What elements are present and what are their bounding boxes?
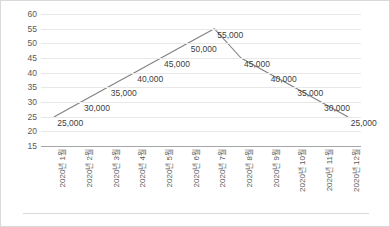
x-axis-category-label: 2020년 9월 xyxy=(272,149,281,211)
data-label: 25,000 xyxy=(57,119,83,128)
y-axis-tick-label: 45 xyxy=(3,54,37,63)
gridline xyxy=(41,73,361,74)
data-label: 30,000 xyxy=(84,104,110,113)
gridline xyxy=(41,29,361,30)
x-axis-category-label: 2020년 10월 xyxy=(298,149,307,211)
y-axis: 60555045403530252015 xyxy=(1,14,37,146)
x-axis-category-label: 2020년 2월 xyxy=(85,149,94,211)
x-axis-category-label: 2020년 12월 xyxy=(352,149,361,211)
y-axis-tick-label: 20 xyxy=(3,127,37,136)
x-axis-line xyxy=(41,146,361,147)
series-line xyxy=(41,14,361,146)
x-axis-category-label: 2020년 1월 xyxy=(58,149,67,211)
data-label: 50,000 xyxy=(191,45,217,54)
data-label: 30,000 xyxy=(324,104,350,113)
gridline xyxy=(41,14,361,15)
data-label: 40,000 xyxy=(271,75,297,84)
gridline xyxy=(41,117,361,118)
y-axis-tick-label: 25 xyxy=(3,113,37,122)
data-label: 45,000 xyxy=(244,60,270,69)
y-axis-tick-label: 50 xyxy=(3,39,37,48)
x-axis-category-label: 2020년 3월 xyxy=(112,149,121,211)
y-axis-tick-label: 55 xyxy=(3,25,37,34)
gridline xyxy=(41,58,361,59)
x-axis-category-label: 2020년 5월 xyxy=(165,149,174,211)
y-axis-tick-label: 40 xyxy=(3,69,37,78)
x-axis-category-label: 2020년 8월 xyxy=(245,149,254,211)
y-axis-tick-label: 60 xyxy=(3,10,37,19)
y-axis-tick-label: 30 xyxy=(3,98,37,107)
gridline xyxy=(41,131,361,132)
y-axis-tick-label: 15 xyxy=(3,142,37,151)
y-axis-tick-label: 35 xyxy=(3,83,37,92)
data-label: 35,000 xyxy=(111,89,137,98)
chart-bottom-rule xyxy=(23,213,369,214)
x-axis-category-label: 2020년 6월 xyxy=(192,149,201,211)
x-axis-category-label: 2020년 4월 xyxy=(138,149,147,211)
data-label: 35,000 xyxy=(297,89,323,98)
x-axis-category-label: 2020년 11월 xyxy=(325,149,334,211)
data-label: 25,000 xyxy=(351,119,377,128)
line-chart: 60555045403530252015 25,00030,00035,0004… xyxy=(0,0,390,227)
x-axis-category-label: 2020년 7월 xyxy=(218,149,227,211)
data-label: 40,000 xyxy=(137,75,163,84)
data-label: 55,000 xyxy=(217,31,243,40)
data-label: 45,000 xyxy=(164,60,190,69)
plot-area: 25,00030,00035,00040,00045,00050,00055,0… xyxy=(41,14,361,146)
x-axis: 2020년 1월2020년 2월2020년 3월2020년 4월2020년 5월… xyxy=(41,149,361,211)
